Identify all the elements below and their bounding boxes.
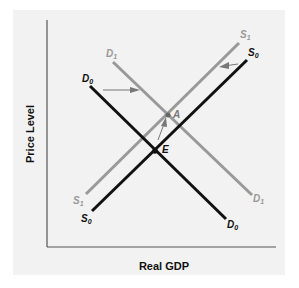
point-a-marker — [166, 113, 171, 118]
chart: Price Level Real GDP A E D1 D0 S1 S0 S1 … — [0, 0, 299, 288]
point-e-label: E — [162, 144, 169, 155]
point-a-label: A — [172, 109, 180, 120]
y-axis-label: Price Level — [24, 105, 36, 163]
point-e-marker — [152, 148, 158, 154]
x-axis-label: Real GDP — [139, 260, 189, 272]
